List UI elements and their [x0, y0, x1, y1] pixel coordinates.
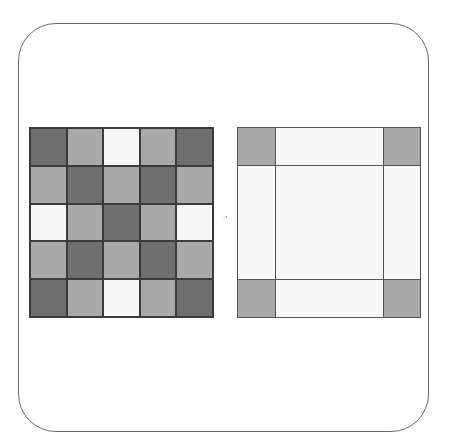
source-grid-5x5 [29, 127, 214, 318]
grid-cell-dark [103, 204, 140, 242]
divider-horizontal-bottom [238, 279, 420, 280]
corner-top-right [383, 128, 420, 166]
grid-cell-dark [176, 279, 213, 317]
grid-cell-mid [103, 166, 140, 204]
corner-bottom-left [238, 279, 276, 317]
grid-cell-dark [67, 166, 104, 204]
grid-cell-mid [140, 128, 177, 166]
divider-vertical-right [383, 128, 384, 317]
arrow-right-icon [214, 216, 237, 218]
grid-cell-mid [30, 241, 67, 279]
grid-cell-mid [176, 241, 213, 279]
grid-cell-mid [140, 279, 177, 317]
grid-cell-mid [67, 128, 104, 166]
grid-cell-dark [30, 128, 67, 166]
grid-cell-light [176, 204, 213, 242]
grid-cell-mid [103, 241, 140, 279]
grid-cell-dark [30, 279, 67, 317]
grid-cell-mid [67, 204, 104, 242]
result-grid [237, 127, 421, 318]
grid-cell-mid [30, 166, 67, 204]
grid-cell-mid [67, 279, 104, 317]
divider-vertical-left [275, 128, 276, 317]
corner-top-left [238, 128, 276, 166]
grid-cell-dark [176, 128, 213, 166]
corner-bottom-right [383, 279, 420, 317]
grid-cell-light [103, 279, 140, 317]
grid-cell-dark [67, 241, 104, 279]
grid-cell-light [30, 204, 67, 242]
grid-cell-dark [140, 166, 177, 204]
grid-cell-light [103, 128, 140, 166]
divider-horizontal-top [238, 165, 420, 166]
grid-cell-mid [140, 204, 177, 242]
grid-cell-mid [176, 166, 213, 204]
grid-cell-dark [140, 241, 177, 279]
